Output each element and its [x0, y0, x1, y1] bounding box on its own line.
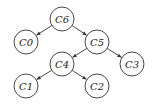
- node-c5: C5: [85, 30, 109, 54]
- edge-c5-to-c3: [107, 48, 121, 57]
- node-c0: C0: [14, 30, 38, 54]
- node-label: C5: [90, 37, 104, 48]
- node-label: C4: [55, 59, 69, 70]
- node-c6: C6: [50, 7, 74, 31]
- node-label: C0: [19, 37, 34, 48]
- node-label: C2: [90, 81, 104, 92]
- edge-c6-to-c0: [37, 25, 52, 35]
- node-c4: C4: [50, 52, 74, 76]
- node-label: C1: [19, 81, 33, 92]
- nodes-group: C6C0C5C3C4C1C2: [14, 7, 144, 98]
- edge-c4-to-c2: [72, 70, 86, 79]
- node-c1: C1: [14, 74, 38, 98]
- tree-diagram: C6C0C5C3C4C1C2: [0, 0, 154, 108]
- node-label: C6: [55, 14, 70, 25]
- edge-c4-to-c1: [37, 70, 52, 79]
- node-label: C3: [125, 59, 139, 70]
- node-c3: C3: [120, 52, 144, 76]
- node-c2: C2: [85, 74, 109, 98]
- edges-group: [37, 25, 122, 79]
- edge-c5-to-c4: [73, 48, 87, 57]
- edge-c6-to-c5: [72, 26, 87, 36]
